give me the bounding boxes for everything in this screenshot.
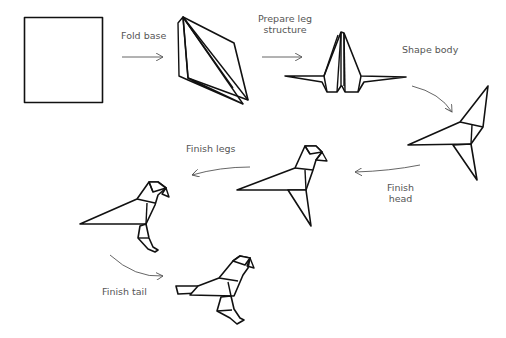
step-shape-body: [408, 86, 488, 180]
label-fold-base: Fold base: [121, 30, 166, 41]
label-finish-legs: Finish legs: [186, 143, 236, 154]
step-finish-head: [237, 146, 327, 226]
step-square-paper: [25, 18, 103, 103]
label-finish-head-line1: Finish: [387, 182, 414, 193]
label-finish-head: Finish head: [387, 182, 414, 204]
label-prepare-leg-line1: Prepare leg: [258, 13, 312, 24]
arrow-finish-head: [355, 165, 420, 172]
arrow-finish-tail: [110, 255, 163, 276]
step-fold-base: [178, 17, 248, 104]
arrow-finish-legs: [192, 167, 250, 175]
label-shape-body: Shape body: [402, 44, 458, 55]
step-prepare-leg-structure: [285, 32, 406, 92]
step-finish-tail: [176, 256, 254, 324]
step-finish-legs: [80, 182, 169, 252]
arrow-shape-body: [412, 86, 452, 112]
label-prepare-leg: Prepare leg structure: [258, 13, 312, 35]
label-finish-head-line2: head: [387, 193, 414, 204]
label-prepare-leg-line2: structure: [258, 24, 312, 35]
label-finish-tail: Finish tail: [102, 286, 147, 297]
